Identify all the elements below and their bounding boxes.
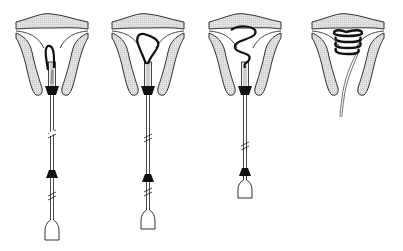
- iud-insertion-diagram: IUD insertion sequence: [0, 0, 403, 251]
- stage-2: [112, 14, 184, 229]
- stage-3: [209, 14, 281, 198]
- inserter-2: [141, 62, 155, 229]
- stage-1: [16, 14, 88, 240]
- iud-device-2: [137, 34, 158, 64]
- iud-threads-4: [340, 54, 356, 117]
- iud-device-4: [334, 30, 362, 54]
- inserter-1: [45, 62, 59, 240]
- inserter-3: [238, 62, 252, 198]
- stage-4: [312, 14, 384, 117]
